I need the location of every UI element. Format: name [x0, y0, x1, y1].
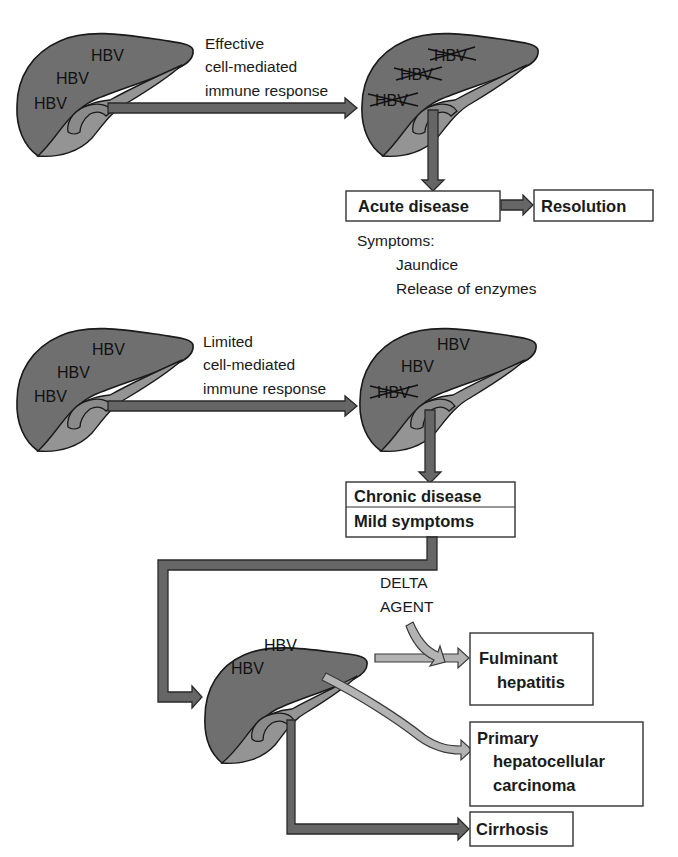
delta-agent-label: AGENT: [380, 598, 434, 615]
fulminant-hepatitis-box: [470, 633, 593, 705]
hbv-label: HBV: [264, 637, 297, 654]
outcome-label: Primary: [477, 729, 539, 747]
response-text: Limited: [203, 333, 253, 350]
hbv-label: HBV: [34, 388, 67, 405]
response-text: cell-mediated: [205, 58, 297, 75]
hbv-label: HBV: [57, 364, 90, 381]
response-text: cell-mediated: [203, 356, 295, 373]
liver-chronic-icon: [205, 648, 367, 763]
outcome-label: hepatitis: [497, 673, 565, 691]
bottom-scenario: HBV HBV HBV Limited cell-mediated immune…: [17, 329, 643, 846]
right-arrow-icon: [501, 195, 533, 215]
symptom-item: Jaundice: [396, 256, 458, 273]
right-arrow-icon: [108, 98, 357, 118]
hbv-label: HBV: [91, 47, 124, 64]
acute-disease-label: Acute disease: [358, 197, 469, 215]
outcome-label: Fulminant: [479, 649, 558, 667]
hbv-label: HBV: [34, 95, 67, 112]
hbv-label: HBV: [231, 660, 264, 677]
outcome-label: hepatocellular: [493, 752, 605, 770]
elbow-arrow-icon: [287, 720, 469, 840]
hbv-outcomes-diagram: HBV HBV HBV Effective cell-mediated immu…: [0, 0, 678, 857]
right-arrow-icon: [108, 396, 357, 416]
hbv-label: HBV: [401, 358, 434, 375]
response-text: immune response: [205, 82, 328, 99]
hbv-crossed-label: HBV: [434, 47, 467, 64]
response-text: Effective: [205, 35, 264, 52]
curved-arrow-icon: [322, 673, 472, 760]
outcome-label: carcinoma: [493, 776, 576, 794]
hbv-label: HBV: [56, 70, 89, 87]
symptoms-title: Symptoms:: [357, 232, 435, 249]
mild-symptoms-label: Mild symptoms: [354, 512, 474, 530]
chronic-disease-label: Chronic disease: [354, 487, 481, 505]
delta-agent-label: DELTA: [380, 574, 428, 591]
resolution-label: Resolution: [541, 197, 626, 215]
hbv-label: HBV: [437, 336, 470, 353]
response-text: immune response: [203, 380, 326, 397]
outcome-label: Cirrhosis: [476, 820, 548, 838]
hbv-crossed-label: HBV: [377, 384, 410, 401]
symptom-item: Release of enzymes: [396, 280, 537, 297]
top-scenario: HBV HBV HBV Effective cell-mediated immu…: [17, 34, 653, 297]
hbv-label: HBV: [92, 341, 125, 358]
